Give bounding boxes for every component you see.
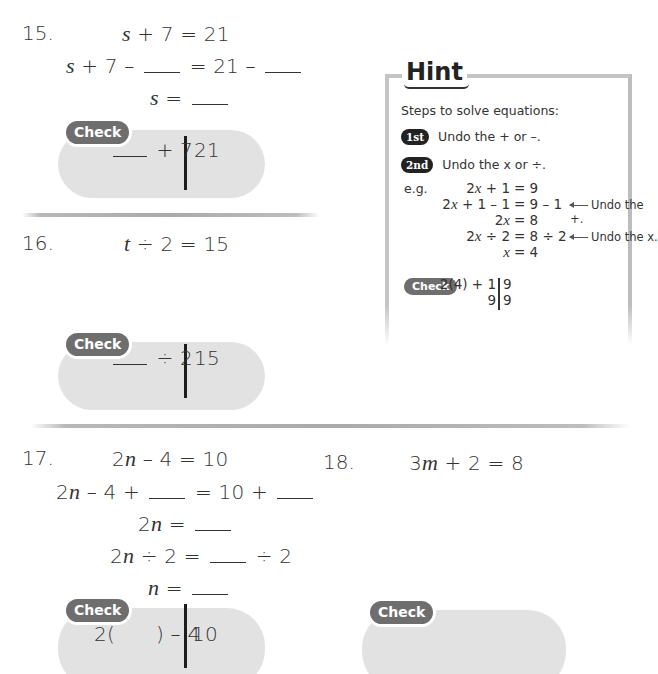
check-row2-right: 9 — [503, 292, 512, 308]
hint-step-text: Undo the + or –. — [438, 129, 541, 144]
problem-equation: s + 7 = 21 — [122, 21, 230, 47]
note-text: Undo the x. — [591, 230, 658, 244]
coefficient: 2 — [466, 180, 475, 196]
check-right: 15 — [194, 346, 220, 370]
check-left: 2( ) – 4 — [94, 622, 200, 646]
example-rhs: = 4 — [514, 244, 538, 260]
check-row1-left: 2(4) + 1 — [440, 276, 496, 292]
check-left-text: + 7 — [157, 138, 193, 162]
example-note: Undo the +. — [570, 198, 658, 226]
problem-equation: t ÷ 2 = 15 — [124, 231, 229, 257]
hint-title: Hint — [402, 58, 467, 86]
hint-step: 1stUndo the + or –. — [401, 129, 541, 145]
step-text: + 7 – — [75, 54, 135, 78]
arrow-left-icon — [570, 237, 588, 238]
example-rhs: = 9 – 1 — [514, 196, 562, 212]
step-line: n = — [148, 575, 231, 601]
check-badge: Check — [367, 598, 436, 627]
coefficient: 3 — [409, 451, 422, 475]
variable: x — [475, 228, 482, 244]
variable: s — [66, 53, 75, 78]
coefficient: 2 — [138, 512, 151, 536]
answer-blank[interactable] — [192, 104, 228, 105]
variable: x — [451, 196, 458, 212]
coefficient: 2 — [110, 544, 123, 568]
check-right: 21 — [194, 138, 220, 162]
problem-number: 16. — [22, 231, 54, 255]
problem-equation: 3m + 2 = 8 — [409, 450, 524, 476]
check-right: 10 — [192, 622, 218, 646]
variable: n — [125, 446, 136, 471]
check-row1-right: 9 — [503, 276, 512, 292]
variable: n — [151, 511, 162, 536]
coefficient: 2 — [442, 196, 451, 212]
coefficient: 2 — [466, 228, 475, 244]
example-text: ÷ 2 — [482, 228, 510, 244]
problem-equation: 2n – 4 = 10 — [112, 446, 228, 472]
problem-number: 18. — [323, 450, 355, 474]
hint-step-text: Undo the x or ÷. — [442, 157, 546, 172]
equation-text: + 2 = 8 — [438, 451, 524, 475]
note-text: Undo the +. — [570, 198, 644, 226]
step-text: = — [159, 576, 183, 600]
variable: n — [148, 575, 159, 600]
coefficient: 2 — [56, 480, 69, 504]
answer-blank[interactable] — [195, 530, 231, 531]
example-rhs: = 8 — [514, 212, 538, 228]
variable: m — [422, 450, 438, 475]
section-divider — [22, 213, 320, 217]
variable: s — [122, 21, 131, 46]
answer-blank[interactable] — [210, 562, 246, 563]
step-badge: 2nd — [401, 157, 433, 173]
variable: x — [503, 212, 510, 228]
example-lhs: 2x — [495, 212, 510, 229]
variable: n — [69, 479, 80, 504]
check-left-text: ÷ 2 — [157, 346, 193, 370]
problem-number: 15. — [22, 21, 54, 45]
example-label: e.g. — [404, 181, 428, 196]
check-left-text: 2( — [94, 622, 115, 646]
answer-blank[interactable] — [113, 364, 147, 365]
equation-text: – 4 = 10 — [136, 447, 228, 471]
answer-blank[interactable] — [144, 72, 180, 73]
variable: x — [503, 244, 510, 260]
answer-blank[interactable] — [265, 72, 301, 73]
equation-text: + 7 = 21 — [131, 22, 230, 46]
example-lhs: 2x + 1 – 1 — [442, 196, 510, 213]
step-text: ÷ 2 — [256, 544, 292, 568]
variable: n — [123, 543, 134, 568]
check-badge: Check — [63, 118, 132, 147]
answer-blank[interactable] — [113, 156, 147, 157]
coefficient: 2 — [112, 447, 125, 471]
answer-blank[interactable] — [149, 498, 185, 499]
example-text: + 1 – 1 — [458, 196, 510, 212]
example-note: Undo the x. — [570, 230, 658, 244]
check-row2-left: 9 — [487, 292, 496, 308]
hint-step: 2ndUndo the x or ÷. — [401, 157, 546, 173]
variable: s — [150, 85, 159, 110]
step-text: = 10 + — [195, 480, 268, 504]
problem-number: 17. — [22, 446, 54, 470]
example-text: + 1 — [482, 180, 510, 196]
answer-blank[interactable] — [277, 498, 313, 499]
step-text: = 21 – — [190, 54, 256, 78]
variable: x — [475, 180, 482, 196]
check-badge: Check — [63, 596, 132, 625]
check-divider — [498, 278, 500, 310]
equation-text: ÷ 2 = 15 — [130, 232, 229, 256]
example-rhs: = 8 ÷ 2 — [514, 228, 567, 244]
step-line: s = — [150, 85, 231, 111]
step-text: = — [162, 512, 186, 536]
arrow-left-icon — [570, 205, 588, 206]
step-line: 2n – 4 + = 10 + — [56, 479, 316, 505]
step-text: – 4 + — [80, 480, 140, 504]
step-text: ÷ 2 = — [134, 544, 201, 568]
check-badge: Check — [63, 330, 132, 359]
step-line: 2n = — [138, 511, 234, 537]
example-rhs: = 9 — [514, 180, 538, 196]
example-lhs: 2x + 1 — [466, 180, 510, 197]
hint-intro: Steps to solve equations: — [401, 103, 559, 118]
step-line: s + 7 – = 21 – — [66, 53, 304, 79]
answer-blank[interactable] — [192, 594, 228, 595]
example-lhs: 2x ÷ 2 — [466, 228, 510, 245]
